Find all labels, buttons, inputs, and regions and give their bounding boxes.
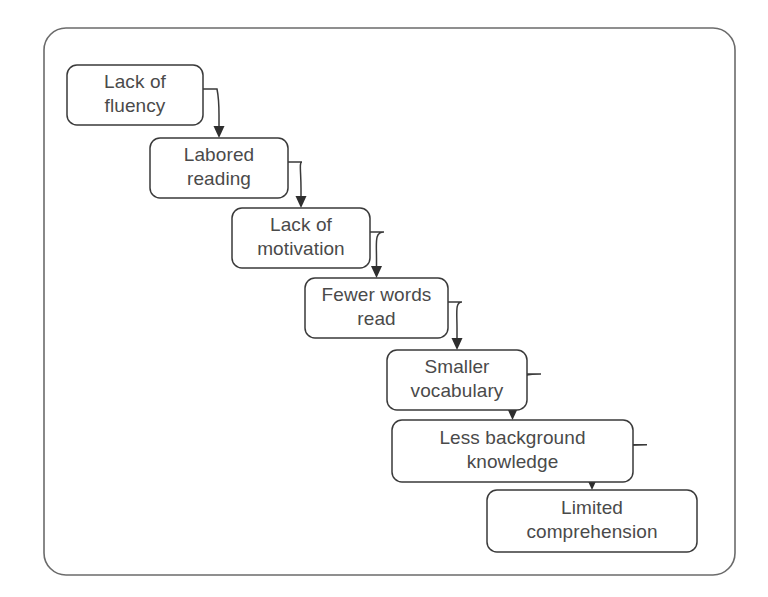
node-label-line: vocabulary	[411, 380, 504, 401]
connector-arrow-4	[448, 302, 463, 350]
diagram-canvas: Lack offluencyLaboredreadingLack ofmotiv…	[0, 0, 768, 597]
node-lack-of-fluency[interactable]: Lack offluency	[67, 65, 203, 125]
arrowhead-icon	[452, 338, 463, 350]
node-label-line: Less background	[439, 427, 585, 448]
node-layer: Lack offluencyLaboredreadingLack ofmotiv…	[67, 65, 697, 552]
node-fewer-words-read[interactable]: Fewer wordsread	[305, 278, 448, 338]
node-label-line: Lack of	[270, 214, 333, 235]
connector-line	[448, 302, 462, 338]
arrowhead-icon	[296, 196, 307, 208]
node-label-line: Limited	[561, 497, 623, 518]
node-label-line: Labored	[184, 144, 254, 165]
node-labored-reading[interactable]: Laboredreading	[150, 138, 288, 198]
node-label-line: fluency	[105, 95, 166, 116]
node-label-line: Fewer words	[322, 284, 432, 305]
node-label-line: knowledge	[467, 451, 559, 472]
arrowhead-icon	[371, 266, 382, 278]
node-limited-comprehension[interactable]: Limitedcomprehension	[487, 490, 697, 552]
connector-arrow-1	[203, 89, 225, 138]
flowchart-diagram: Lack offluencyLaboredreadingLack ofmotiv…	[0, 0, 768, 597]
node-label-line: read	[357, 308, 395, 329]
connector-arrow-2	[288, 162, 307, 208]
connector-arrow-3	[370, 232, 384, 278]
node-label-line: motivation	[257, 238, 345, 259]
node-smaller-vocabulary[interactable]: Smallervocabulary	[387, 350, 527, 410]
node-less-background-knowledge[interactable]: Less backgroundknowledge	[392, 420, 633, 482]
node-label-line: Smaller	[424, 356, 490, 377]
connector-line	[370, 232, 384, 266]
connector-line	[203, 89, 219, 126]
node-lack-of-motivation[interactable]: Lack ofmotivation	[232, 208, 370, 268]
node-label-line: reading	[187, 168, 251, 189]
connector-line	[288, 162, 302, 196]
node-label-line: Lack of	[104, 71, 167, 92]
arrowhead-icon	[214, 126, 225, 138]
node-label-line: comprehension	[526, 521, 657, 542]
